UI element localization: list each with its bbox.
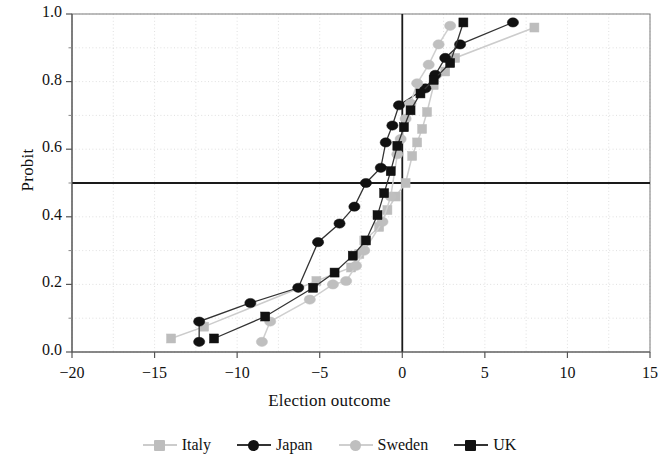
data-point (380, 189, 389, 198)
data-point (194, 337, 205, 346)
data-point (261, 312, 270, 321)
x-tick-label: −5 (290, 364, 350, 382)
x-tick-label: 0 (372, 364, 432, 382)
data-point (334, 219, 345, 228)
y-tick-label: 1.0 (6, 3, 62, 21)
data-point (304, 295, 315, 304)
data-point (399, 123, 408, 132)
data-point (245, 298, 256, 307)
legend-label: Sweden (378, 436, 429, 454)
legend-marker-uk-icon (454, 438, 488, 452)
data-point (416, 89, 425, 98)
data-point (293, 283, 304, 292)
data-point (446, 59, 455, 68)
y-tick-label: 0.6 (6, 138, 62, 156)
data-point (401, 179, 410, 188)
x-tick-label: 10 (537, 364, 597, 382)
data-point (423, 60, 434, 69)
legend-item-italy[interactable]: Italy (143, 436, 211, 454)
data-point (256, 337, 267, 346)
legend-label: UK (493, 436, 516, 454)
data-point (530, 23, 539, 32)
data-point (392, 150, 403, 159)
data-point (412, 79, 423, 88)
y-tick-label: 0.0 (6, 341, 62, 359)
legend-item-sweden[interactable]: Sweden (339, 436, 429, 454)
x-tick-label: 15 (620, 364, 659, 382)
data-point (375, 163, 386, 172)
legend-item-uk[interactable]: UK (454, 436, 516, 454)
data-point (312, 238, 323, 247)
legend-marker-japan-icon (237, 438, 271, 452)
data-point (429, 75, 438, 84)
data-point (361, 236, 370, 245)
data-point (418, 124, 427, 133)
legend-label: Japan (276, 436, 312, 454)
data-point (393, 101, 404, 110)
x-axis-title: Election outcome (0, 391, 659, 411)
legend-label: Italy (182, 436, 211, 454)
legend-item-japan[interactable]: Japan (237, 436, 312, 454)
data-point (167, 334, 176, 343)
x-tick-label: −20 (42, 364, 102, 382)
data-point (393, 141, 402, 150)
data-point (507, 18, 518, 27)
data-point (327, 280, 338, 289)
data-point (194, 317, 205, 326)
data-point (387, 121, 398, 130)
data-point (406, 106, 415, 115)
data-point (423, 108, 432, 117)
data-point (445, 21, 456, 30)
data-point (373, 211, 382, 220)
legend-marker-italy-icon (143, 438, 177, 452)
data-point (433, 40, 444, 49)
data-point (349, 202, 360, 211)
x-tick-label: −15 (125, 364, 185, 382)
chart-legend: ItalyJapanSwedenUK (0, 436, 659, 454)
y-tick-label: 0.2 (6, 273, 62, 291)
data-point (210, 334, 219, 343)
data-point (350, 261, 361, 270)
data-point (459, 18, 468, 27)
data-point (380, 138, 391, 147)
probit-chart-figure: Election outcome Probit ItalyJapanSweden… (0, 0, 659, 466)
x-tick-label: 5 (455, 364, 515, 382)
data-point (413, 138, 422, 147)
x-tick-label: −10 (207, 364, 267, 382)
data-point (360, 178, 371, 187)
data-point (386, 167, 395, 176)
y-tick-label: 0.8 (6, 71, 62, 89)
data-point (341, 276, 352, 285)
legend-marker-sweden-icon (339, 438, 373, 452)
y-tick-label: 0.4 (6, 206, 62, 224)
data-point (309, 283, 318, 292)
data-point (348, 251, 357, 260)
data-point (330, 268, 339, 277)
data-point (408, 151, 417, 160)
